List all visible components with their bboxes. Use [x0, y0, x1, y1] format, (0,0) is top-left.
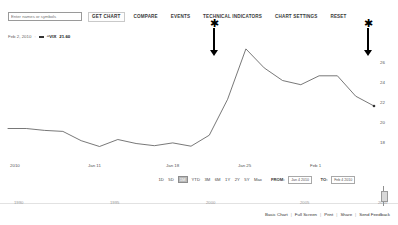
footer-separator: | — [320, 212, 321, 217]
footer-link-send-feedback[interactable]: Send Feedback — [359, 212, 390, 217]
range-button-3m[interactable]: 3M — [204, 177, 211, 182]
series-color-swatch — [39, 36, 44, 38]
x-axis-tick-label: Feb 1 — [310, 163, 321, 168]
chart-settings-menu-item[interactable]: CHART SETTINGS — [275, 14, 317, 19]
navigator-year-label: 2010 — [378, 200, 387, 205]
range-button-group: 1D5D1MYTD3M6M1Y2Y5YMax — [158, 176, 262, 183]
from-label: FROM: — [271, 177, 285, 182]
footer-links: Basic Chart|Full Screen|Print|Share|Send… — [265, 212, 390, 217]
x-axis-tick-label: Jan 11 — [88, 163, 101, 168]
main-chart[interactable]: 2624222018 — [0, 46, 398, 158]
x-axis-tick-label: 2010 — [10, 163, 20, 168]
top-toolbar: GET CHART COMPARE EVENTS TECHNICAL INDIC… — [8, 10, 390, 23]
navigator-baseline — [0, 203, 398, 204]
symbol-search-input[interactable] — [8, 12, 82, 21]
y-axis-tick-label: 26 — [380, 60, 385, 65]
y-axis-tick-label: 22 — [380, 100, 385, 105]
range-button-5d[interactable]: 5D — [168, 177, 174, 182]
range-navigator[interactable]: 19901995200020052010 — [0, 186, 398, 208]
range-button-1m[interactable]: 1M — [178, 176, 188, 183]
last-data-point-marker — [373, 105, 376, 108]
get-chart-button[interactable]: GET CHART — [88, 12, 125, 22]
range-button-1y[interactable]: 1Y — [225, 177, 231, 182]
footer-separator: | — [355, 212, 356, 217]
x-axis-tick-label: Jan 18 — [166, 163, 179, 168]
footer-separator: | — [336, 212, 337, 217]
navigator-year-label: 1995 — [110, 200, 119, 205]
y-axis-tick-label: 18 — [380, 140, 385, 145]
footer-link-basic-chart[interactable]: Basic Chart — [265, 212, 288, 217]
navigator-year-label: 2000 — [206, 200, 215, 205]
x-axis-tick-label: Jan 25 — [238, 163, 251, 168]
y-axis-tick-label: 24 — [380, 80, 385, 85]
range-button-2y[interactable]: 2Y — [234, 177, 240, 182]
range-controls: 1D5D1MYTD3M6M1Y2Y5YMax FROM: TO: — [158, 176, 355, 184]
footer-link-full-screen[interactable]: Full Screen — [295, 212, 317, 217]
quote-date: Feb 2, 2010 — [8, 34, 31, 39]
from-date-input[interactable] — [288, 176, 312, 184]
range-button-max[interactable]: Max — [253, 177, 262, 182]
y-axis-tick-labels: 2624222018 — [380, 60, 385, 145]
range-button-ytd[interactable]: YTD — [191, 177, 200, 182]
navigator-year-label: 2005 — [300, 200, 309, 205]
to-label: TO: — [321, 177, 328, 182]
quote-separator: : — [34, 34, 35, 39]
to-date-input[interactable] — [331, 176, 355, 184]
price-line-svg: 2624222018 — [0, 46, 398, 158]
technical-indicators-menu-item[interactable]: TECHNICAL INDICATORS — [203, 14, 262, 19]
compare-menu-item[interactable]: COMPARE — [134, 14, 158, 19]
x-axis-tick-labels: 2010Jan 11Jan 18Jan 25Feb 1 — [0, 163, 398, 171]
y-axis-tick-label: 20 — [380, 120, 385, 125]
footer-separator: | — [291, 212, 292, 217]
events-menu-item[interactable]: EVENTS — [171, 14, 190, 19]
footer-link-share[interactable]: Share — [340, 212, 352, 217]
range-button-5y[interactable]: 5Y — [244, 177, 250, 182]
range-button-1d[interactable]: 1D — [158, 177, 164, 182]
quote-legend: Feb 2, 2010 : ^VIX 21.60 — [8, 34, 70, 39]
footer-link-print[interactable]: Print — [324, 212, 333, 217]
chart-application: GET CHART COMPARE EVENTS TECHNICAL INDIC… — [0, 0, 398, 225]
price-line — [8, 49, 374, 147]
quote-value: 21.60 — [59, 34, 70, 39]
navigator-year-label: 1990 — [14, 200, 23, 205]
quote-symbol: ^VIX — [47, 34, 57, 39]
range-button-6m[interactable]: 6M — [214, 177, 221, 182]
reset-menu-item[interactable]: RESET — [330, 14, 346, 19]
